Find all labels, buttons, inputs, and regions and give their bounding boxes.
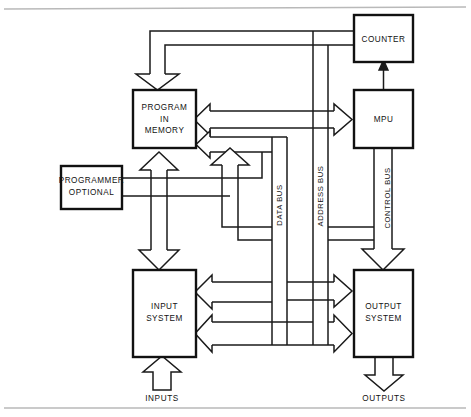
program-bottom-right-arrowhead [211, 148, 249, 165]
output-left-arrowhead-upper [334, 275, 352, 307]
address-bus-to-input-arrow [195, 315, 328, 352]
inputs-arrowhead [143, 356, 181, 390]
address-bus-to-output-arrow [328, 315, 352, 352]
data-bus-to-input-arrow [195, 275, 272, 309]
program-left-arrowhead-lower [196, 131, 210, 158]
bus-to-mpu-arrow [313, 104, 352, 135]
control-bus-branch [328, 227, 374, 240]
io-label-inputs: INPUTS [145, 394, 179, 403]
outputs-arrowhead [365, 357, 403, 391]
block-program-in-memory[interactable]: PROGRAM IN MEMORY [133, 90, 196, 148]
mpu-left-arrowhead [334, 104, 352, 135]
outputs-arrow [365, 357, 403, 391]
block-programmer-optional[interactable]: PROGRAMMER OPTIONAL [59, 166, 125, 209]
counter-to-program-arrowhead [136, 74, 179, 90]
io-label-outputs: OUTPUTS [362, 394, 405, 403]
block-input-system[interactable]: INPUT SYSTEM [133, 270, 196, 357]
block-diagram-canvas: COUNTER MPU PROGRAM IN MEMORY PROGRAMMER… [0, 0, 471, 417]
lower-rail-to-program-up-arrow [211, 148, 249, 198]
block-output-label-line1: OUTPUT [365, 302, 402, 311]
block-input-label-line1: INPUT [151, 302, 178, 311]
inputs-arrow [143, 356, 181, 390]
block-programmer-label-line1: PROGRAMMER [59, 176, 125, 185]
data-bus-to-output-arrow [287, 275, 352, 307]
counter-to-program-path [136, 31, 354, 90]
block-mpu-label: MPU [374, 115, 394, 124]
page-rule-top [4, 7, 466, 9]
program-input-vertical-channel [139, 152, 179, 270]
block-mpu[interactable]: MPU [354, 90, 413, 148]
bus-label-address: ADDRESS BUS [316, 165, 325, 226]
input-system-top-arrowhead [139, 250, 179, 270]
block-counter[interactable]: COUNTER [354, 15, 413, 62]
block-input-label-line2: SYSTEM [146, 314, 183, 323]
mpu-to-counter-path [379, 60, 388, 90]
output-left-arrowhead-lower [334, 315, 352, 352]
bus-label-control: CONTROL BUS [383, 167, 392, 228]
block-output-system[interactable]: OUTPUT SYSTEM [354, 270, 413, 357]
block-programmer-label-line2: OPTIONAL [69, 188, 114, 197]
bus-label-data: DATA BUS [275, 184, 284, 225]
input-left-arrowhead-upper [195, 275, 212, 309]
block-program-label-line2: IN [160, 115, 169, 124]
block-program-label-line3: MEMORY [145, 126, 185, 135]
block-output-label-line2: SYSTEM [365, 314, 402, 323]
address-bus-to-program-arrow [194, 104, 313, 135]
output-system-top-arrowhead [362, 249, 404, 270]
data-bus-trunk [272, 137, 287, 345]
program-bottom-left-arrowhead [140, 152, 178, 170]
block-program-label-line1: PROGRAM [142, 103, 188, 112]
control-bus-to-output-arrow [362, 249, 404, 270]
input-left-arrowhead-lower [195, 315, 212, 352]
block-counter-label: COUNTER [362, 35, 406, 44]
diagram-svg: COUNTER MPU PROGRAM IN MEMORY PROGRAMMER… [0, 0, 471, 417]
